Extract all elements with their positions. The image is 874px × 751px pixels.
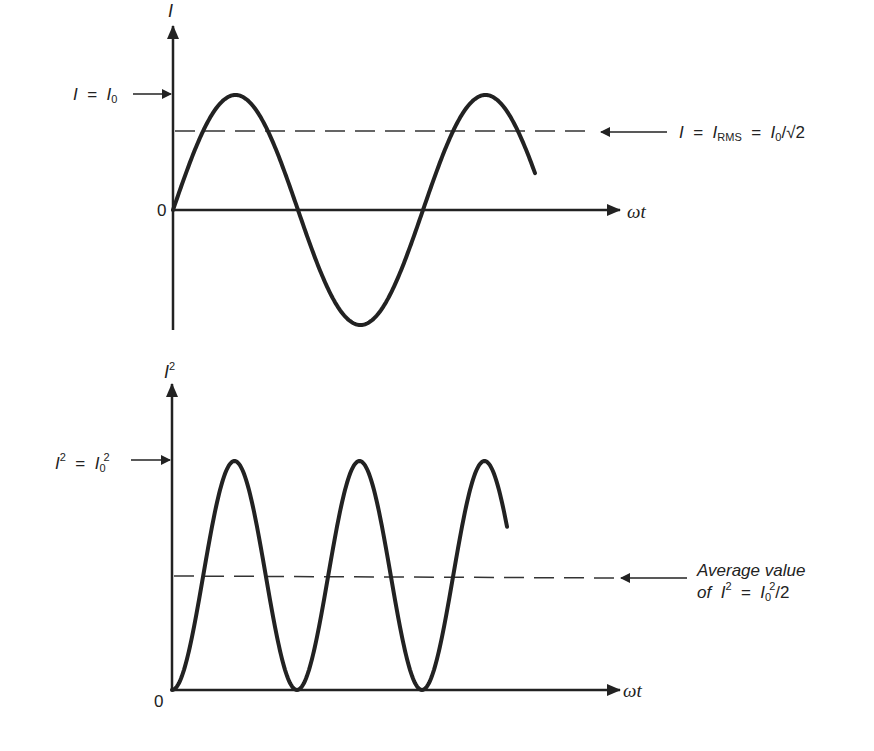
average-value-label-line2: of I2 = I02/2 bbox=[697, 581, 790, 603]
diagram-graphics bbox=[0, 0, 874, 751]
average-dashed-line bbox=[174, 576, 614, 578]
average-value-label-line1: Average value bbox=[697, 562, 805, 579]
bottom-x-axis-label: ωt bbox=[623, 681, 642, 700]
top-plot bbox=[133, 26, 667, 330]
top-x-axis-label: ωt bbox=[627, 202, 646, 221]
top-origin-label: 0 bbox=[157, 202, 166, 219]
ac-rms-diagram: I 0 ωt I = I0 I = IRMS = I0/√2 I2 0 ωt I… bbox=[0, 0, 874, 751]
bottom-y-axis-label: I2 bbox=[164, 361, 175, 381]
bottom-origin-label: 0 bbox=[154, 693, 163, 710]
top-y-axis-label: I bbox=[168, 2, 173, 20]
peak-current-label: I = I0 bbox=[73, 86, 117, 105]
peak-squared-label: I2 = I02 bbox=[55, 452, 110, 474]
bottom-plot bbox=[131, 384, 687, 690]
rms-current-label: I = IRMS = I0/√2 bbox=[679, 124, 805, 143]
